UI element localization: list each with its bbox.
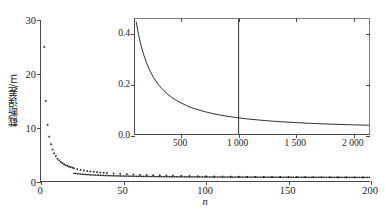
data-point [113,173,115,175]
data-point [106,172,108,174]
inset-x-tick-top [354,18,355,22]
data-point [195,176,196,177]
data-point [346,177,347,178]
data-point [176,176,177,177]
main-y-tick [37,20,41,21]
data-point [199,176,200,177]
data-point [116,175,117,176]
data-point [146,174,148,176]
data-point [101,175,102,176]
data-point [352,177,353,178]
data-point [187,176,188,177]
data-point [93,174,94,175]
data-point [70,166,72,168]
data-point [95,174,96,175]
data-point [184,176,185,177]
data-point [351,177,352,178]
data-point [232,176,233,177]
data-point [349,177,350,178]
data-point [52,149,54,151]
inset-x-tick-label: 500 [173,138,187,148]
data-point [78,173,79,174]
data-point [169,176,170,177]
data-point [261,177,262,178]
data-point [103,172,105,174]
data-point [219,176,220,177]
data-point [128,175,129,176]
data-point [276,177,277,178]
data-point [313,177,314,178]
data-point [258,177,259,178]
data-point [58,160,60,162]
data-point [314,177,315,178]
inset-y-tick-right [366,136,370,137]
data-point [118,175,119,176]
data-point [362,177,363,178]
data-point [90,171,92,173]
data-point [339,177,340,178]
data-point [357,177,358,178]
inset-series-line [135,19,369,134]
inset-x-tick-top [239,18,240,22]
data-point [186,176,187,177]
main-x-tick-label: 150 [280,185,296,196]
data-point [222,176,223,177]
main-y-tick-label: 30 [26,15,37,26]
data-point [151,176,152,177]
data-point [253,176,254,177]
data-point [294,177,295,178]
data-point [100,172,102,174]
data-point [171,176,172,177]
data-point [65,164,67,166]
data-point [238,176,239,177]
data-point [93,171,95,173]
data-point [85,174,86,175]
data-point [100,175,101,176]
data-point [237,176,238,177]
data-point [344,177,345,178]
data-point [355,177,356,178]
main-y-axis-title-text: 截断误差/m [6,74,21,127]
data-point [225,176,226,177]
data-point [334,177,335,178]
data-point [202,176,203,177]
data-point [336,177,337,178]
data-point [270,177,271,178]
data-point [63,163,65,165]
data-point [62,162,64,164]
data-point [255,176,256,177]
data-point [77,168,79,170]
data-point [329,177,330,178]
data-point [72,167,74,169]
data-point [205,176,206,177]
data-point [134,176,135,177]
data-point [365,177,366,178]
data-point [242,176,243,177]
data-point [141,176,142,177]
data-point [275,177,276,178]
data-point [273,177,274,178]
data-point [266,177,267,178]
inset-x-tick-label: 2 000 [342,138,363,148]
data-point [214,176,215,177]
data-point [143,176,144,177]
data-point [120,175,121,176]
data-point [367,177,368,178]
inset-y-tick-label: 0.0 [118,130,130,140]
data-point [212,176,213,177]
data-point [172,176,173,177]
data-point [268,177,269,178]
data-point [110,175,111,176]
data-point [304,177,305,178]
data-point [189,176,190,177]
data-point [360,177,361,178]
data-point [280,177,281,178]
data-point [209,176,210,177]
data-point [283,177,284,178]
data-point [156,176,157,177]
data-point [123,175,124,176]
data-point [96,171,98,173]
data-point [285,177,286,178]
main-y-tick-label: 0 [31,177,36,188]
data-point [91,174,92,175]
